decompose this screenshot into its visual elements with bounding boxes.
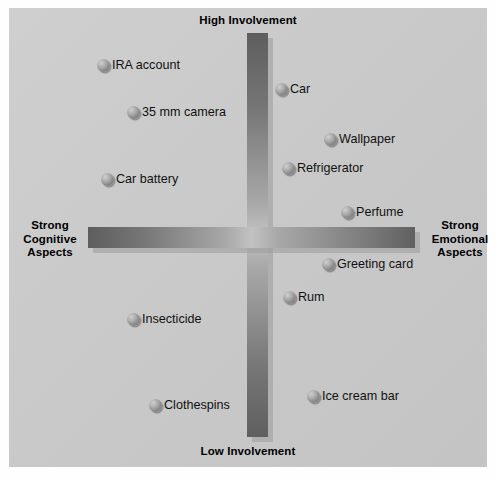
data-point: Ice cream bar [307, 390, 399, 403]
data-point-marker-icon [275, 83, 288, 96]
data-point-marker-icon [307, 390, 320, 403]
data-point-label: Clothespins [164, 399, 230, 412]
data-point-marker-icon [101, 173, 114, 186]
axis-label-strong-emotional-aspects: Strong Emotional Aspects [424, 219, 496, 260]
horizontal-axis-bar [88, 227, 415, 248]
data-point-marker-icon [283, 291, 296, 304]
data-point: Wallpaper [324, 133, 395, 146]
data-point-marker-icon [322, 258, 335, 271]
axis-label-strong-cognitive-aspects: Strong Cognitive Aspects [14, 219, 86, 260]
data-point-marker-icon [97, 59, 110, 72]
data-point-label: 35 mm camera [142, 106, 226, 119]
axis-label-low-involvement: Low Involvement [0, 445, 496, 459]
data-point-marker-icon [127, 313, 140, 326]
data-point-marker-icon [282, 162, 295, 175]
data-point-label: Car [290, 83, 310, 96]
data-point-marker-icon [127, 106, 140, 119]
data-point-label: Greeting card [337, 258, 413, 271]
data-point: Clothespins [149, 399, 230, 412]
involvement-grid-figure: High Involvement Low Involvement Strong … [0, 0, 496, 479]
data-point-label: Car battery [116, 173, 178, 186]
data-point: Car [275, 83, 310, 96]
data-point-label: Rum [298, 291, 325, 304]
data-point-marker-icon [149, 399, 162, 412]
data-point-label: Refrigerator [297, 162, 364, 175]
data-point-label: Ice cream bar [322, 390, 399, 403]
data-point: Perfume [341, 206, 404, 219]
axis-label-high-involvement: High Involvement [0, 14, 496, 28]
data-point-marker-icon [341, 206, 354, 219]
data-point-marker-icon [324, 133, 337, 146]
data-point-label: Wallpaper [339, 133, 395, 146]
data-point-label: Perfume [356, 206, 404, 219]
data-point-label: Insecticide [142, 313, 202, 326]
data-point-label: IRA account [112, 59, 180, 72]
data-point: Car battery [101, 173, 178, 186]
data-point: IRA account [97, 59, 180, 72]
data-point: 35 mm camera [127, 106, 226, 119]
data-point: Refrigerator [282, 162, 364, 175]
data-point: Rum [283, 291, 325, 304]
data-point: Greeting card [322, 258, 413, 271]
data-point: Insecticide [127, 313, 202, 326]
